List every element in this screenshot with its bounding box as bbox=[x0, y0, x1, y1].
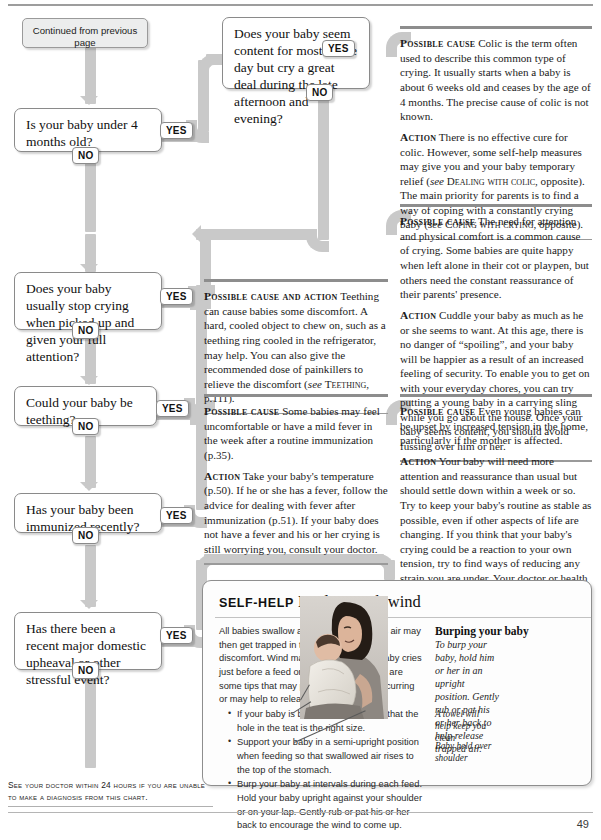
branch-yes-q4[interactable]: YES bbox=[156, 400, 189, 417]
branch-yes-q2[interactable]: YES bbox=[322, 40, 355, 57]
advice-teething-text: Possible cause and action Teething can c… bbox=[204, 289, 388, 406]
connector-q2-no bbox=[318, 90, 329, 240]
advice-attention-cause: Possible cause The need for attention an… bbox=[400, 214, 592, 302]
label-action: Action bbox=[400, 455, 436, 467]
connector-q5-no bbox=[85, 545, 96, 607]
label-possible-cause: Possible cause bbox=[400, 37, 475, 49]
label-possible-cause: Possible cause bbox=[400, 215, 475, 227]
question-q1-text: Is your baby under 4 months old? bbox=[26, 117, 138, 149]
start-box: Continued from previous page bbox=[22, 18, 148, 48]
arrow-down-q6 bbox=[80, 600, 98, 609]
branch-no-q4[interactable]: NO bbox=[72, 418, 99, 435]
advice-attention-cause-text: The need for attention and physical comf… bbox=[400, 215, 589, 300]
label-possible-cause-and-action: Possible cause and action bbox=[204, 290, 338, 302]
arrow-down-q1 bbox=[80, 96, 98, 105]
advice-teething-rule bbox=[204, 279, 388, 282]
branch-no-q1[interactable]: NO bbox=[72, 147, 99, 164]
label-action: Action bbox=[400, 309, 436, 321]
branch-no-q6[interactable]: NO bbox=[72, 662, 99, 679]
list-item: Burp your baby at intervals during each … bbox=[230, 778, 423, 833]
branch-no-q2[interactable]: NO bbox=[306, 84, 333, 101]
advice-immunization-action-text: Take your baby's temperature (p.50). If … bbox=[204, 470, 388, 555]
advice-teething-ref: Teething bbox=[325, 378, 366, 390]
label-possible-cause: Possible cause bbox=[204, 405, 279, 417]
advice-immunization-cause: Possible cause Some babies may feel unco… bbox=[204, 404, 388, 463]
start-box-label: Continued from previous page bbox=[33, 25, 138, 48]
advice-immunization-bottom-rule bbox=[204, 563, 388, 565]
advice-teething-t1: Teething can cause babies some discomfor… bbox=[204, 290, 386, 390]
advice-colic-see1: see bbox=[430, 175, 444, 187]
arrow-down-q5 bbox=[80, 482, 98, 491]
self-help-divider bbox=[215, 617, 591, 618]
question-box-q1[interactable]: Is your baby under 4 months old? bbox=[14, 108, 162, 152]
connector-q1-no bbox=[85, 160, 96, 232]
branch-no-q5[interactable]: NO bbox=[72, 527, 99, 544]
footer-divider bbox=[8, 806, 213, 807]
bottom-divider bbox=[8, 812, 593, 813]
label-possible-cause: Possible cause bbox=[400, 405, 475, 417]
connector-q4-no bbox=[85, 436, 96, 488]
advice-tension-rule bbox=[400, 394, 592, 397]
branch-yes-q3[interactable]: YES bbox=[160, 288, 193, 305]
advice-colic-ref1: Dealing with colic bbox=[447, 175, 535, 187]
advice-attention-rule bbox=[400, 204, 592, 207]
advice-colic-cause: Possible cause Colic is the term often u… bbox=[400, 36, 592, 124]
advice-immunization: Possible cause Some babies may feel unco… bbox=[204, 394, 388, 565]
advice-immunization-rule bbox=[204, 394, 388, 397]
arrow-down-q4 bbox=[80, 376, 98, 385]
self-help-tip-list: If your baby is bottle-fed, make sure th… bbox=[219, 708, 423, 833]
connector-q3-join bbox=[200, 229, 216, 240]
burping-photograph bbox=[300, 596, 388, 719]
branch-yes-q5[interactable]: YES bbox=[160, 507, 193, 524]
branch-yes-q6[interactable]: YES bbox=[160, 627, 193, 644]
figure-label-shoulder: Baby held over shoulder bbox=[435, 741, 495, 765]
branch-no-q3[interactable]: NO bbox=[72, 322, 99, 339]
page-number: 49 bbox=[577, 818, 589, 830]
advice-colic-rule bbox=[400, 26, 592, 29]
figure-label-towel: A towel will help keep you clean bbox=[435, 709, 493, 745]
top-divider bbox=[8, 4, 593, 6]
self-help-panel: Self-help Dealing with wind All babies s… bbox=[202, 580, 592, 786]
flowchart-page: Continued from previous page Is your bab… bbox=[0, 0, 601, 840]
label-action: Action bbox=[204, 470, 240, 482]
advice-colic-cause-text: Colic is the term often used to describe… bbox=[400, 37, 591, 122]
advice-tension-cause: Possible cause Even young babies can be … bbox=[400, 404, 592, 448]
label-action: Action bbox=[400, 131, 436, 143]
advice-teething-see: see bbox=[308, 378, 322, 390]
figure-heading: Burping your baby bbox=[435, 625, 591, 637]
advice-immunization-action: Action Take your baby's temperature (p.5… bbox=[204, 469, 388, 557]
list-item: Support your baby in a semi-upright posi… bbox=[230, 736, 423, 777]
self-help-kicker: Self-help bbox=[219, 596, 294, 610]
footer-warning: See your doctor within 24 hours if you a… bbox=[8, 780, 213, 804]
branch-yes-q1[interactable]: YES bbox=[160, 122, 193, 139]
